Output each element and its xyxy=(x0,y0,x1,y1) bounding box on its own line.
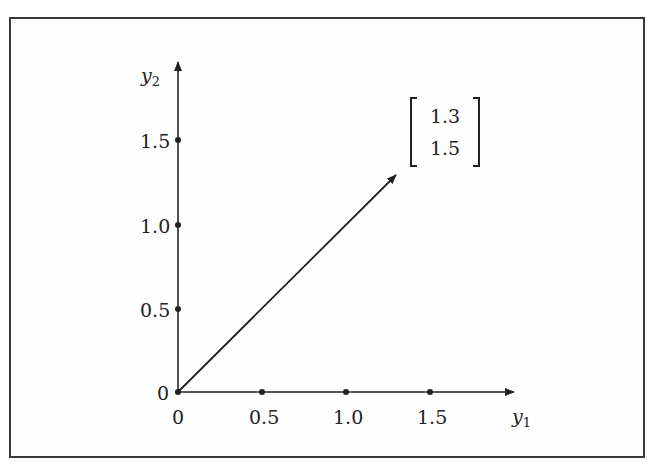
y-origin-label: 0 xyxy=(157,384,169,403)
y-tick-label: 1.5 xyxy=(140,132,170,151)
y-tick-label: 0.5 xyxy=(140,301,170,320)
column-vector-annotation: 1.3 1.5 xyxy=(410,97,480,167)
x-tick-label: 1.0 xyxy=(333,408,363,427)
y-tick-dot xyxy=(175,137,181,143)
x-axis-label: y1 xyxy=(512,407,531,426)
y-axis-label: y2 xyxy=(141,66,160,85)
x-tick-label: 0.5 xyxy=(249,408,279,427)
y-tick-dot xyxy=(175,222,181,228)
vector-arrow xyxy=(178,175,396,392)
y-tick-dot xyxy=(175,306,181,312)
vector-plot xyxy=(0,0,651,472)
x-tick-label: 1.5 xyxy=(417,408,447,427)
x-origin-label: 0 xyxy=(172,408,184,427)
vector-component-2: 1.5 xyxy=(410,137,480,159)
vector-component-1: 1.3 xyxy=(410,105,480,127)
x-tick-dot xyxy=(343,389,349,395)
x-tick-dot xyxy=(259,389,265,395)
y-tick-label: 1.0 xyxy=(140,217,170,236)
x-tick-dot xyxy=(427,389,433,395)
